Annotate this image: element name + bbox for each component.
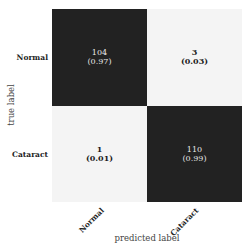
cell-ratio: (0.01)	[86, 154, 113, 163]
cell-ratio: (0.03)	[181, 57, 208, 66]
y-tick-cataract: Cataract	[12, 150, 48, 159]
y-axis-label: true label	[6, 84, 16, 126]
y-tick-normal: Normal	[17, 53, 48, 62]
cell-cataract-normal: 1 (0.01)	[52, 106, 147, 203]
cell-ratio: (0.97)	[87, 57, 111, 66]
cell-normal-normal: 104 (0.97)	[52, 9, 147, 106]
cell-count: 110	[187, 145, 202, 154]
cell-count: 104	[92, 48, 107, 57]
confusion-matrix-figure: true label Normal Cataract 104 (0.97) 3 …	[0, 0, 252, 251]
cell-ratio: (0.99)	[182, 154, 206, 163]
x-axis-label: predicted label	[114, 233, 179, 243]
cell-normal-cataract: 3 (0.03)	[147, 9, 242, 106]
cell-cataract-cataract: 110 (0.99)	[147, 106, 242, 203]
x-tick-normal: Normal	[77, 206, 106, 235]
confusion-matrix-grid: 104 (0.97) 3 (0.03) 1 (0.01) 110 (0.99)	[52, 9, 242, 202]
